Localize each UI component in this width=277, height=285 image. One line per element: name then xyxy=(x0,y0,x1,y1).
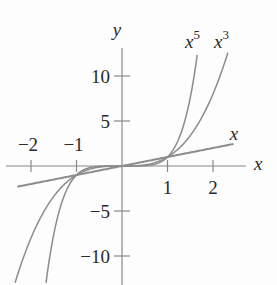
curve-label-x3-exp: 3 xyxy=(222,27,229,42)
x-axis-label: x xyxy=(253,153,263,174)
curve-label-x: x xyxy=(229,123,239,144)
x-tick-label: −1 xyxy=(63,134,83,155)
y-tick-label: −5 xyxy=(90,201,110,222)
plot-area: −2−112105−5−10 y x x x5 x3 xyxy=(0,0,277,285)
chart-figure: −2−112105−5−10 y x x x5 x3 xyxy=(0,0,277,285)
y-tick-label: 5 xyxy=(101,111,111,132)
x-tick-label: 1 xyxy=(163,177,173,198)
y-axis-label: y xyxy=(111,19,122,40)
x-tick-label: −2 xyxy=(18,134,38,155)
curves xyxy=(15,53,233,283)
curve-label-x5-exp: 5 xyxy=(193,27,200,42)
curve-label-x3: x3 xyxy=(213,27,229,52)
y-tick-label: −10 xyxy=(80,246,110,267)
curve-label-x5: x5 xyxy=(184,27,200,52)
y-tick-label: 10 xyxy=(91,66,110,87)
x-tick-label: 2 xyxy=(208,177,218,198)
